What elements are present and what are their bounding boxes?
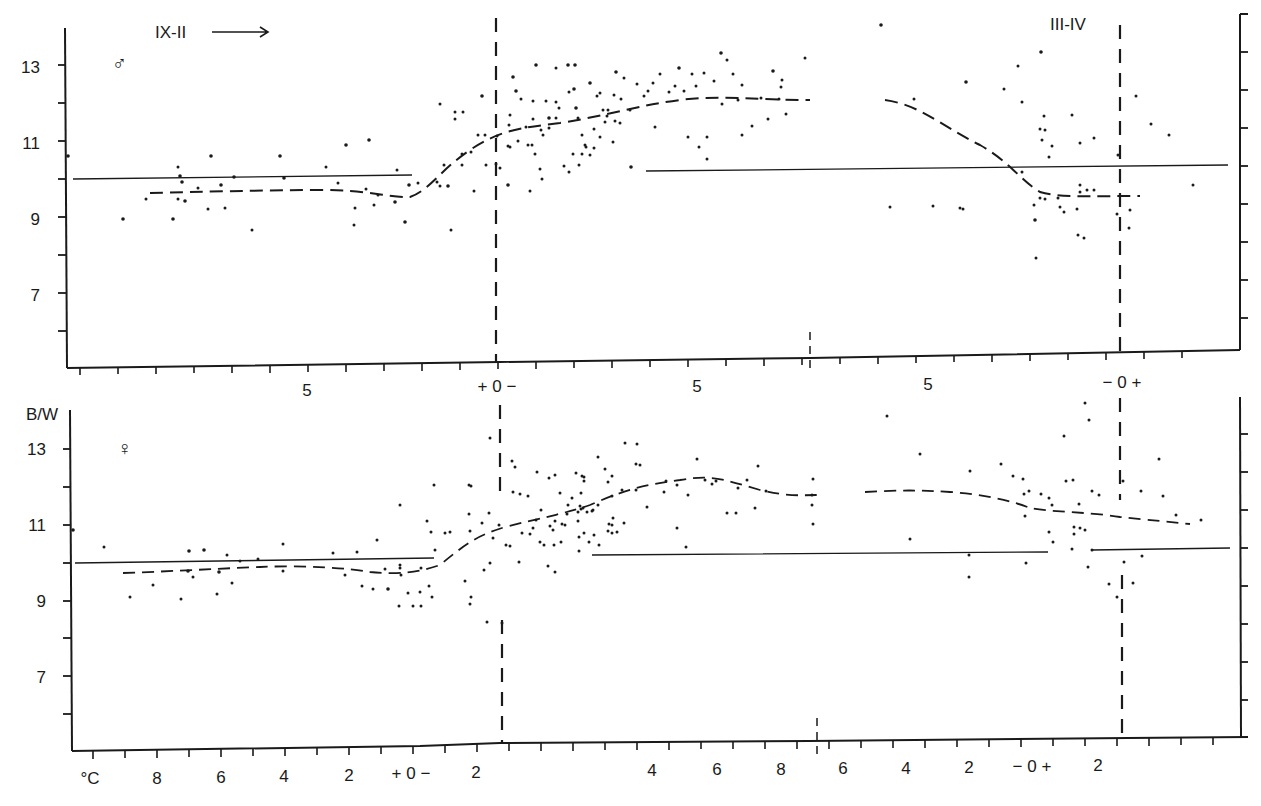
bottom-zero-line-right	[1120, 398, 1122, 737]
top-left-axis	[65, 28, 67, 368]
top-x-label-zero-left: + 0 −	[478, 377, 517, 396]
bottom-panel	[63, 397, 1248, 759]
bottom-y-label-13: 13	[27, 440, 46, 459]
top-mean-line-left	[73, 175, 412, 179]
bottom-x-label-4: 2	[344, 766, 353, 785]
bottom-x-label-14: 2	[1093, 756, 1102, 775]
bottom-zero-line-left	[500, 405, 502, 743]
x-unit-label: °C	[80, 769, 99, 788]
bottom-x-label-12: 2	[964, 758, 973, 777]
top-y-label-13: 13	[21, 58, 40, 77]
bottom-y-label-11: 11	[28, 516, 46, 535]
top-panel	[58, 14, 1248, 375]
bottom-x-label-zero-left: + 0 −	[392, 764, 431, 783]
bottom-scatter	[71, 402, 1202, 625]
bottom-left-axis	[70, 410, 72, 751]
bottom-x-label-zero-right: − 0 +	[1013, 757, 1052, 776]
bottom-x-axis	[72, 737, 1248, 751]
bottom-x-label-10: 6	[838, 759, 847, 778]
top-trend-line	[150, 98, 1140, 197]
bottom-x-label-8: 6	[712, 760, 721, 779]
bottom-y-label-9: 9	[37, 592, 46, 611]
bottom-x-label-6: 2	[471, 763, 480, 782]
bottom-x-label-2: 6	[216, 768, 225, 787]
top-x-label-zero-right: − 0 +	[1103, 373, 1142, 392]
y-axis-title: B/W	[26, 405, 58, 424]
bottom-y-label-7: 7	[37, 668, 46, 687]
bottom-right-axis	[1240, 397, 1241, 737]
top-x-label-4: 5	[923, 375, 932, 394]
top-y-label-11: 11	[22, 134, 40, 153]
top-x-label-3: 5	[692, 377, 701, 396]
top-y-label-7: 7	[31, 286, 40, 305]
bottom-x-label-9: 8	[776, 760, 785, 779]
arrow-right-icon	[212, 27, 268, 37]
top-y-label-9: 9	[31, 210, 40, 229]
figure: 13 11 9 7 ♂ IX-II III-IV 5 + 0 − 5 5 − 0…	[0, 0, 1261, 806]
period-label-iii-iv: III-IV	[1050, 15, 1087, 34]
top-mean-line-right	[646, 165, 1228, 171]
top-scatter	[66, 23, 1194, 259]
bottom-mean-line-left	[75, 558, 434, 563]
male-symbol-icon: ♂	[112, 52, 127, 74]
top-x-label-1: 5	[302, 381, 311, 400]
bottom-x-label-3: 4	[279, 767, 288, 786]
period-label-ix-ii: IX-II	[155, 23, 186, 42]
bottom-x-label-11: 4	[901, 759, 910, 778]
female-symbol-icon: ♀	[117, 437, 132, 459]
top-x-axis	[67, 350, 1240, 368]
bottom-x-label-1: 8	[152, 769, 161, 788]
bottom-x-label-7: 4	[647, 761, 656, 780]
bottom-mean-line-right	[592, 548, 1230, 555]
